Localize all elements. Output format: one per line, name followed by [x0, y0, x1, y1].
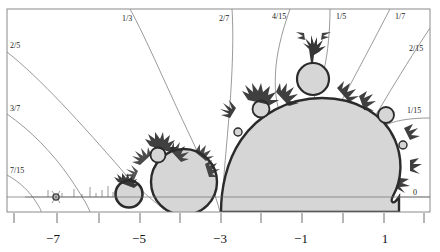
x-tick-label--3: −3 — [213, 231, 227, 246]
x-tick-label--1: −1 — [294, 231, 308, 246]
ray-label-1-7: 1/7 — [395, 12, 405, 21]
ray-label-1-3: 1/3 — [122, 14, 132, 23]
ray-label-2-7: 2/7 — [219, 14, 229, 23]
ray-label-7-15: 7/15 — [10, 166, 24, 175]
right-shoulder-bulb — [378, 107, 394, 123]
ray-label-1-15: 1/15 — [407, 106, 421, 115]
x-tick-label--5: −5 — [132, 231, 146, 246]
x-axis-tick-labels: −7 −5 −3 −1 1 — [46, 231, 388, 246]
period3-bulb — [297, 63, 329, 95]
ray-label-0: 0 — [413, 188, 417, 197]
ray-label-2-15: 2/15 — [409, 44, 423, 53]
ray-label-3-7: 3/7 — [10, 104, 20, 113]
ray-label-4-15: 4/15 — [272, 12, 286, 21]
ray-label-2-5: 2/5 — [10, 41, 20, 50]
x-axis-ticks — [14, 213, 424, 223]
ray-label-1-5: 1/5 — [336, 12, 346, 21]
x-tick-label--7: −7 — [46, 231, 60, 246]
x-tick-label-1: 1 — [382, 231, 389, 246]
mandelbrot-figure: 2/5 1/3 2/7 4/15 1/5 1/7 2/15 3/7 1/15 7… — [0, 0, 440, 252]
